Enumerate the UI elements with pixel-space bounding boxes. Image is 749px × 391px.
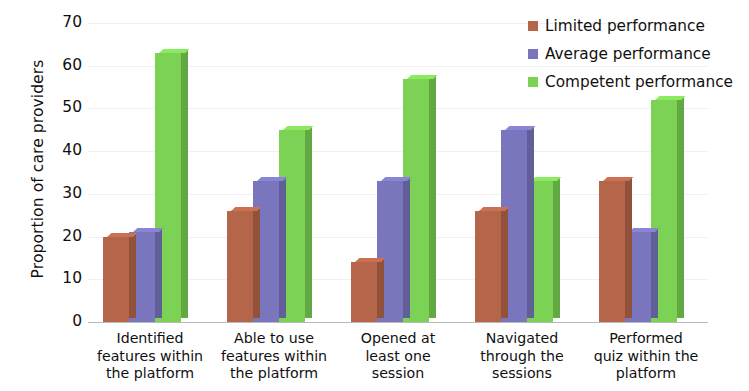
bar-side-face	[651, 228, 658, 318]
bar	[103, 237, 129, 322]
bar-front-face	[103, 237, 129, 322]
bar-side-face	[377, 258, 384, 318]
y-tick-label: 10	[30, 272, 82, 288]
y-tick-label: 20	[30, 229, 82, 245]
bar-front-face	[227, 211, 253, 322]
bar-side-face	[501, 207, 508, 318]
y-tick-label: 40	[30, 143, 82, 159]
legend-label: Average performance	[545, 45, 711, 63]
x-axis-label-line: Performed	[578, 330, 714, 348]
bar-side-face	[527, 126, 534, 318]
bar-front-face	[599, 181, 625, 322]
bar	[599, 181, 625, 322]
bar-side-face	[305, 126, 312, 318]
legend-item[interactable]: Average performance	[528, 40, 749, 68]
x-axis-label: Navigatedthrough thesessions	[454, 330, 590, 383]
x-axis-label: Opened atleast onesession	[330, 330, 466, 383]
legend-color-swatch-icon	[528, 77, 538, 87]
bar-side-face	[677, 96, 684, 318]
bar-chart: Proportion of care providers 01020304050…	[0, 0, 749, 391]
x-axis-label-line: features within	[82, 348, 218, 366]
y-axis-tick-labels: 010203040506070	[30, 0, 82, 391]
legend-label: Limited performance	[545, 17, 705, 35]
bar-side-face	[403, 177, 410, 318]
x-axis-label-line: the platform	[82, 365, 218, 383]
bar-side-face	[553, 177, 560, 318]
x-axis-label-line: Navigated	[454, 330, 590, 348]
bar-side-face	[181, 49, 188, 318]
bar	[351, 262, 377, 322]
x-axis-label-line: the platform	[206, 365, 342, 383]
bar-side-face	[253, 207, 260, 318]
x-axis-category-labels: Identifiedfeatures withinthe platformAbl…	[88, 330, 708, 391]
bar-front-face	[351, 262, 377, 322]
x-axis-label-line: through the	[454, 348, 590, 366]
bar-side-face	[625, 177, 632, 318]
legend-label: Competent performance	[545, 73, 733, 91]
x-axis-label-line: Opened at	[330, 330, 466, 348]
y-tick-label: 70	[30, 15, 82, 31]
x-axis-label-line: Able to use	[206, 330, 342, 348]
x-axis-label: Able to usefeatures withinthe platform	[206, 330, 342, 383]
x-axis-label-line: session	[330, 365, 466, 383]
x-axis-label-line: sessions	[454, 365, 590, 383]
x-axis-label-line: Identified	[82, 330, 218, 348]
y-tick-label: 50	[30, 101, 82, 117]
bar	[227, 211, 253, 322]
y-tick-label: 60	[30, 58, 82, 74]
y-tick-label: 30	[30, 186, 82, 202]
x-axis-label-line: features within	[206, 348, 342, 366]
x-axis-label-line: platform	[578, 365, 714, 383]
legend-item[interactable]: Competent performance	[528, 68, 749, 96]
bar	[475, 211, 501, 322]
chart-legend: Limited performanceAverage performanceCo…	[528, 12, 749, 96]
x-axis-label-line: least one	[330, 348, 466, 366]
legend-color-swatch-icon	[528, 49, 538, 59]
x-axis-label-line: quiz within the	[578, 348, 714, 366]
bar-side-face	[155, 228, 162, 318]
bar-front-face	[475, 211, 501, 322]
y-tick-label: 0	[30, 314, 82, 330]
x-axis-label: Performedquiz within theplatform	[578, 330, 714, 383]
legend-item[interactable]: Limited performance	[528, 12, 749, 40]
bar-side-face	[129, 233, 136, 318]
x-axis-label: Identifiedfeatures withinthe platform	[82, 330, 218, 383]
bar-side-face	[279, 177, 286, 318]
legend-color-swatch-icon	[528, 21, 538, 31]
bar-side-face	[429, 75, 436, 318]
